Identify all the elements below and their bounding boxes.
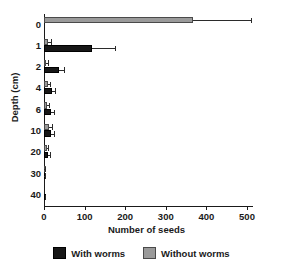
x-tick-label: 300 (151, 211, 181, 222)
legend-label: With worms (71, 248, 125, 259)
legend-label: Without worms (161, 248, 230, 259)
x-tick-mark (44, 206, 45, 210)
x-tick-label: 200 (110, 211, 140, 222)
error-bar-cap (55, 88, 56, 94)
y-tick-label: 40 (19, 190, 41, 200)
x-tick-label: 100 (70, 211, 100, 222)
x-tick-mark (247, 206, 248, 210)
bar-with-worms (44, 88, 52, 94)
seed-depth-bar-chart: Depth (cm) 0124610203040 010020030040050… (0, 0, 283, 276)
x-axis-title: Number of seeds (44, 224, 249, 235)
x-tick-label: 400 (191, 211, 221, 222)
error-bar-cap (115, 46, 116, 52)
x-tick-mark (125, 206, 126, 210)
error-bar-cap (48, 60, 49, 66)
y-tick-label: 20 (19, 147, 41, 157)
y-tick-label: 4 (19, 83, 41, 93)
y-tick-label: 1 (19, 41, 41, 51)
legend-item: Without worms (143, 247, 230, 259)
error-bar-cap (54, 131, 55, 137)
error-bar-cap (52, 124, 53, 130)
error-bar-cap (45, 173, 46, 179)
error-bar-cap (50, 152, 51, 158)
error-bar-cap (48, 145, 49, 151)
chart-legend: With wormsWithout worms (0, 247, 283, 259)
error-bar-cap (49, 103, 50, 109)
y-tick-label: 6 (19, 105, 41, 115)
legend-swatch-with-worms (53, 247, 66, 259)
x-tick-mark (206, 206, 207, 210)
y-tick-label: 2 (19, 62, 41, 72)
bar-with-worms (44, 109, 51, 115)
y-tick-label: 30 (19, 169, 41, 179)
x-tick-label: 500 (232, 211, 262, 222)
error-bar-line (92, 48, 115, 49)
error-bar-cap (45, 195, 46, 201)
legend-item: With worms (53, 247, 125, 259)
bar-with-worms (44, 45, 92, 51)
bar-without-worms (44, 17, 193, 23)
error-bar-line (193, 20, 251, 21)
legend-swatch-without-worms (143, 247, 156, 259)
x-tick-mark (85, 206, 86, 210)
y-axis-tick-labels: 0124610203040 (18, 0, 41, 210)
x-axis-line (44, 206, 253, 207)
error-bar-cap (45, 167, 46, 173)
y-tick-label: 0 (19, 20, 41, 30)
x-tick-mark (166, 206, 167, 210)
bar-with-worms (44, 67, 59, 73)
error-bar-cap (50, 82, 51, 88)
y-tick-label: 10 (19, 126, 41, 136)
x-tick-label: 0 (29, 211, 59, 222)
error-bar-cap (251, 18, 252, 24)
error-bar-cap (64, 67, 65, 73)
error-bar-cap (54, 110, 55, 116)
error-bar-cap (51, 39, 52, 45)
bar-with-worms (44, 130, 51, 136)
